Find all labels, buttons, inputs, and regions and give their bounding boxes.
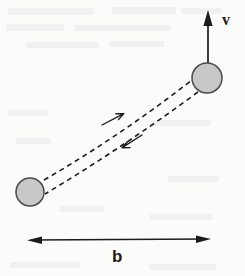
lower-particle-circle [16, 178, 44, 206]
impact-parameter-shaft [31, 239, 207, 240]
outgoing-trajectory-path [44, 80, 192, 180]
velocity-label: v [222, 12, 230, 28]
upper-particle [192, 63, 222, 93]
diagram-canvas [0, 0, 245, 276]
incoming-trajectory-arrowhead [122, 135, 142, 148]
impact-parameter-arrow [27, 235, 211, 244]
incoming-trajectory-path [45, 92, 198, 194]
incoming-trajectory [45, 92, 198, 194]
impact-parameter-left-arrowhead [27, 236, 42, 244]
velocity-vector-arrowhead [203, 10, 212, 26]
outgoing-trajectory [44, 80, 192, 180]
lower-particle [16, 178, 44, 206]
upper-particle-circle [192, 63, 222, 93]
velocity-vector [203, 10, 212, 63]
scattering-diagram-figure: v b [0, 0, 245, 276]
outgoing-trajectory-arrowhead [102, 114, 124, 125]
impact-parameter-right-arrowhead [196, 235, 211, 243]
impact-parameter-label: b [112, 248, 122, 265]
